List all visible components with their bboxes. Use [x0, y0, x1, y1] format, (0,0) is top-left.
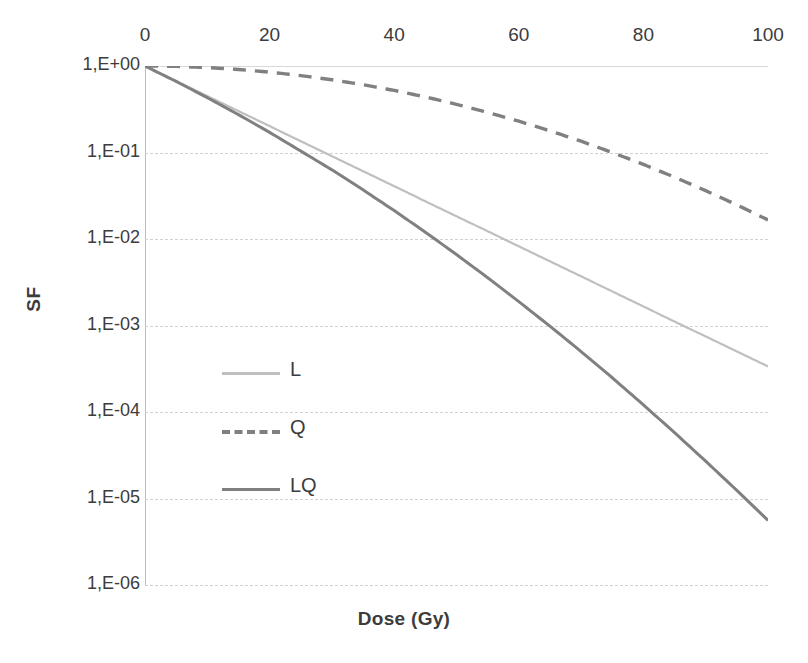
legend: LQLQ — [222, 358, 372, 532]
x-tick-label: 60 — [484, 24, 554, 46]
legend-item-lq: LQ — [222, 474, 372, 532]
y-axis-title: SF — [23, 269, 45, 329]
x-tick-label: 40 — [359, 24, 429, 46]
y-tick-label: 1,E+00 — [44, 54, 140, 75]
x-tick-label: 100 — [733, 24, 803, 46]
survival-fraction-chart: SF Dose (Gy) 1,E+001,E-011,E-021,E-031,E… — [0, 0, 808, 663]
y-tick-label: 1,E-01 — [44, 141, 140, 162]
x-tick-label: 0 — [110, 24, 180, 46]
y-tick-label: 1,E-03 — [44, 314, 140, 335]
legend-swatch — [222, 488, 280, 491]
y-tick-label: 1,E-04 — [44, 400, 140, 421]
x-tick-label: 80 — [608, 24, 678, 46]
legend-label: Q — [290, 416, 306, 439]
y-tick-label: 1,E-05 — [44, 487, 140, 508]
legend-label: L — [290, 358, 301, 381]
series-line-q — [145, 66, 768, 220]
y-tick-label: 1,E-06 — [44, 573, 140, 594]
legend-label: LQ — [290, 474, 317, 497]
gridline-y — [145, 585, 768, 586]
legend-swatch — [222, 372, 280, 375]
x-tick-label: 20 — [235, 24, 305, 46]
y-tick-label: 1,E-02 — [44, 227, 140, 248]
legend-swatch — [222, 430, 280, 434]
legend-item-l: L — [222, 358, 372, 416]
x-axis-title: Dose (Gy) — [0, 608, 808, 630]
series-line-l — [145, 66, 768, 366]
legend-item-q: Q — [222, 416, 372, 474]
